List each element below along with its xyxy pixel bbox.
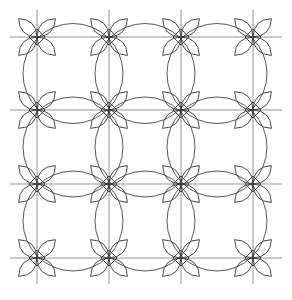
grid-lines bbox=[10, 10, 282, 284]
circle-arcs bbox=[0, 24, 292, 272]
star-petal bbox=[19, 19, 37, 37]
tiling-circle bbox=[167, 97, 267, 197]
star-petal bbox=[37, 37, 55, 55]
star-petal bbox=[235, 37, 253, 55]
tiling-circle bbox=[23, 24, 123, 124]
star-nodes bbox=[19, 19, 272, 277]
tiling-circle bbox=[95, 24, 195, 124]
tiling-svg bbox=[0, 0, 292, 300]
tiling-circle bbox=[23, 171, 123, 271]
tiling-circle bbox=[23, 97, 123, 197]
star-petal bbox=[37, 240, 55, 258]
star-petal bbox=[235, 240, 253, 258]
tiling-circle bbox=[167, 24, 267, 124]
tiling-circle bbox=[167, 171, 267, 271]
tiling-diagram bbox=[0, 0, 292, 300]
tiling-circle bbox=[95, 97, 195, 197]
tiling-circle bbox=[95, 171, 195, 271]
star-petal bbox=[253, 19, 271, 37]
